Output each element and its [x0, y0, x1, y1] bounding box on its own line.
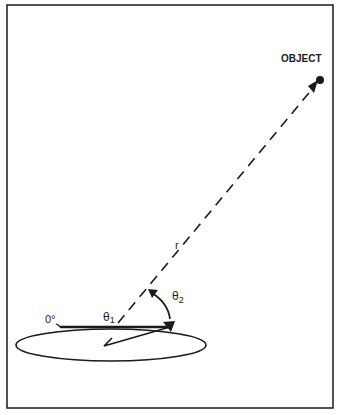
zero-degree-label: 0°	[45, 313, 56, 325]
diagram-frame	[7, 5, 333, 408]
theta2-arc	[152, 293, 170, 319]
theta2-subscript: 2	[179, 295, 184, 305]
object-label: OBJECT	[281, 53, 322, 64]
vehicle-outline	[16, 329, 206, 361]
object-arrowhead-icon	[308, 80, 318, 93]
zero-tick-icon	[56, 324, 60, 327]
theta1-subscript: 1	[110, 315, 115, 325]
range-line	[118, 88, 313, 323]
range-label: r	[175, 239, 179, 251]
theta1-label: θ1	[103, 310, 115, 325]
object-dot-icon	[316, 76, 324, 84]
diagram-canvas: OBJECT r θ1 θ2 0°	[0, 0, 341, 415]
theta2-label: θ2	[172, 289, 184, 305]
